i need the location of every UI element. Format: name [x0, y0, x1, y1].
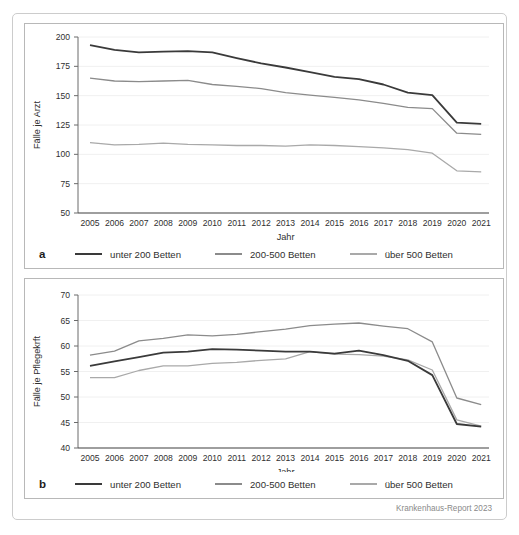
x-tick-label: 2013: [276, 453, 295, 463]
x-tick-label: 2020: [447, 218, 466, 228]
y-tick-label: 50: [60, 392, 70, 402]
series-line: [90, 143, 481, 172]
x-tick-label: 2021: [472, 218, 491, 228]
legend-b: unter 200 Betten 200-500 Betten über 500…: [25, 476, 503, 492]
legend-item-200-500: 200-500 Betten: [215, 479, 316, 490]
chart-b: 4045505560657020052006200720082009201020…: [25, 279, 503, 472]
x-tick-label: 2008: [154, 453, 173, 463]
source-note: Krankenhaus-Report 2023: [396, 504, 492, 513]
y-tick-label: 150: [56, 91, 71, 101]
x-tick-label: 2019: [423, 453, 442, 463]
x-tick-label: 2008: [154, 218, 173, 228]
y-axis-title: Fälle je Pflegekrft: [32, 336, 42, 407]
y-tick-label: 60: [60, 341, 70, 351]
legend-a: unter 200 Betten 200-500 Betten über 500…: [25, 246, 503, 262]
x-tick-label: 2017: [374, 453, 393, 463]
x-axis-title: Jahr: [277, 467, 295, 472]
x-tick-label: 2016: [349, 218, 368, 228]
x-axis-title: Jahr: [277, 232, 295, 242]
x-tick-label: 2018: [398, 453, 417, 463]
legend-label: über 500 Betten: [385, 249, 453, 260]
x-tick-label: 2020: [447, 453, 466, 463]
line-swatch-icon: [75, 483, 102, 485]
line-swatch-icon: [215, 483, 242, 485]
x-tick-label: 2014: [300, 218, 319, 228]
legend-item-unter-200: unter 200 Betten: [75, 479, 181, 490]
y-tick-label: 45: [60, 418, 70, 428]
x-tick-label: 2006: [105, 453, 124, 463]
y-tick-label: 175: [56, 61, 71, 71]
x-tick-label: 2006: [105, 218, 124, 228]
x-tick-label: 2021: [472, 453, 491, 463]
series-line: [90, 45, 481, 124]
x-tick-label: 2018: [398, 218, 417, 228]
x-tick-label: 2014: [300, 453, 319, 463]
y-tick-label: 70: [60, 290, 70, 300]
x-tick-label: 2005: [80, 453, 99, 463]
legend-label: 200-500 Betten: [250, 479, 316, 490]
line-swatch-icon: [350, 483, 377, 485]
line-swatch-icon: [75, 253, 102, 255]
figure-frame: 5075100125150175200200520062007200820092…: [12, 13, 507, 520]
y-tick-label: 75: [60, 179, 70, 189]
y-axis-title: Fälle je Arzt: [32, 101, 42, 149]
series-line: [90, 78, 481, 134]
legend-label: unter 200 Betten: [110, 249, 181, 260]
legend-item-ueber-500: über 500 Betten: [350, 249, 453, 260]
x-tick-label: 2010: [203, 218, 222, 228]
legend-item-unter-200: unter 200 Betten: [75, 249, 181, 260]
panel-a: 5075100125150175200200520062007200820092…: [24, 23, 504, 269]
x-tick-label: 2005: [80, 218, 99, 228]
x-tick-label: 2016: [349, 453, 368, 463]
x-tick-label: 2009: [178, 453, 197, 463]
y-tick-label: 100: [56, 149, 71, 159]
line-swatch-icon: [350, 253, 377, 255]
chart-a: 5075100125150175200200520062007200820092…: [25, 24, 503, 242]
panel-b: 4045505560657020052006200720082009201020…: [24, 278, 504, 499]
y-tick-label: 50: [60, 208, 70, 218]
series-line: [90, 349, 481, 427]
x-tick-label: 2010: [203, 453, 222, 463]
x-tick-label: 2009: [178, 218, 197, 228]
y-tick-label: 200: [56, 32, 71, 42]
x-tick-label: 2019: [423, 218, 442, 228]
y-tick-label: 65: [60, 316, 70, 326]
legend-label: über 500 Betten: [385, 479, 453, 490]
x-tick-label: 2015: [325, 218, 344, 228]
screenshot-root: { "figure": { "source_note": "Krankenhau…: [0, 0, 519, 535]
legend-item-200-500: 200-500 Betten: [215, 249, 316, 260]
line-swatch-icon: [215, 253, 242, 255]
x-tick-label: 2017: [374, 218, 393, 228]
x-tick-label: 2012: [252, 453, 271, 463]
y-tick-label: 125: [56, 120, 71, 130]
series-line: [90, 352, 481, 427]
legend-label: 200-500 Betten: [250, 249, 316, 260]
x-tick-label: 2013: [276, 218, 295, 228]
x-tick-label: 2011: [227, 453, 246, 463]
y-tick-label: 55: [60, 367, 70, 377]
series-line: [90, 323, 481, 405]
x-tick-label: 2015: [325, 453, 344, 463]
x-tick-label: 2011: [227, 218, 246, 228]
x-tick-label: 2007: [129, 453, 148, 463]
x-tick-label: 2012: [252, 218, 271, 228]
x-tick-label: 2007: [129, 218, 148, 228]
legend-label: unter 200 Betten: [110, 479, 181, 490]
legend-item-ueber-500: über 500 Betten: [350, 479, 453, 490]
y-tick-label: 40: [60, 443, 70, 453]
